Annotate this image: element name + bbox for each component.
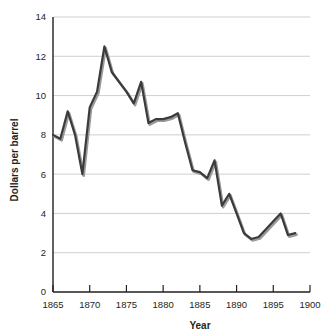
y-axis-title: Dollars per barrel <box>9 118 20 201</box>
y-tick-label-2: 2 <box>41 247 46 258</box>
y-tick-label-10: 10 <box>35 90 46 101</box>
x-tick-label-1890: 1890 <box>226 299 247 310</box>
x-tick-label-1885: 1885 <box>189 299 210 310</box>
x-tick-label-1870: 1870 <box>79 299 100 310</box>
x-tick-label-1900: 1900 <box>299 299 320 310</box>
x-tick-label-1880: 1880 <box>153 299 174 310</box>
y-tick-label-12: 12 <box>35 51 46 62</box>
x-tick-label-1875: 1875 <box>116 299 137 310</box>
y-tick-label-0: 0 <box>41 286 46 297</box>
x-tick-label-1865: 1865 <box>42 299 63 310</box>
line-chart: 02468101214 1865187018751880188518901895… <box>0 0 327 336</box>
chart-canvas: 02468101214 1865187018751880188518901895… <box>0 0 327 336</box>
y-tick-label-14: 14 <box>35 11 46 22</box>
x-axis-title: Year <box>189 320 210 331</box>
x-tick-label-1895: 1895 <box>263 299 284 310</box>
y-tick-label-6: 6 <box>41 169 46 180</box>
y-tick-label-4: 4 <box>41 208 46 219</box>
y-tick-label-8: 8 <box>41 129 46 140</box>
